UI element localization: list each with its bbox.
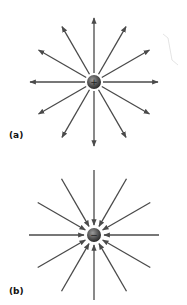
field-line-arrow bbox=[39, 87, 87, 115]
field-line-arrow bbox=[39, 50, 87, 78]
charge-sign: − bbox=[90, 230, 98, 240]
panel-a-label: (a) bbox=[9, 130, 23, 140]
field-line-arrow bbox=[62, 27, 90, 75]
negative-charge-panel: − bbox=[29, 170, 159, 300]
field-line-arrow bbox=[102, 50, 150, 78]
stray-mark bbox=[163, 34, 178, 65]
panel-b-label: (b) bbox=[9, 286, 24, 296]
field-lines-diagram: + − bbox=[0, 0, 187, 305]
field-line-arrow bbox=[62, 90, 90, 138]
field-line-arrow bbox=[99, 90, 127, 138]
positive-charge-panel: + bbox=[30, 18, 158, 146]
field-line-arrow bbox=[99, 27, 127, 75]
charge-sign: + bbox=[90, 77, 98, 87]
field-line-arrow bbox=[102, 87, 150, 115]
